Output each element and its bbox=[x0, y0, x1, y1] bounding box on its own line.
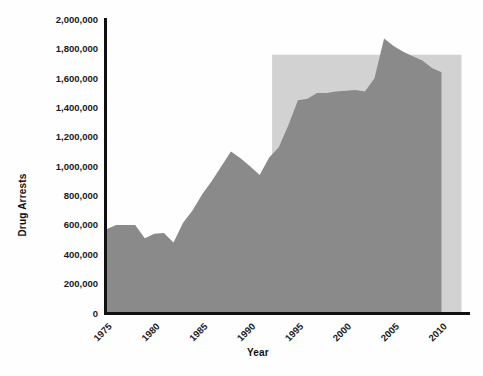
y-tick-label: 800,000 bbox=[64, 190, 98, 201]
drug-arrests-area-chart: 0200,000400,000600,000800,0001,000,0001,… bbox=[0, 0, 483, 376]
y-axis-title: Drug Arrests bbox=[17, 173, 28, 236]
y-tick-label: 200,000 bbox=[64, 278, 98, 289]
chart-container: 0200,000400,000600,000800,0001,000,0001,… bbox=[0, 0, 483, 376]
y-tick-label: 1,600,000 bbox=[56, 73, 98, 84]
y-tick-label: 400,000 bbox=[64, 249, 98, 260]
y-tick-label: 2,000,000 bbox=[56, 14, 98, 25]
y-tick-label: 1,800,000 bbox=[56, 43, 98, 54]
y-tick-label: 1,200,000 bbox=[56, 131, 98, 142]
x-axis-title: Year bbox=[247, 347, 269, 358]
y-tick-label: 0 bbox=[93, 308, 98, 319]
y-tick-label: 600,000 bbox=[64, 219, 98, 230]
y-tick-label: 1,000,000 bbox=[56, 161, 98, 172]
y-tick-label: 1,400,000 bbox=[56, 102, 98, 113]
